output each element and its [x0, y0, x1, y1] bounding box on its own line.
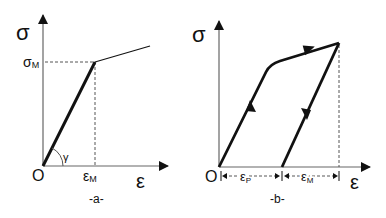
x-axis-label: ε [136, 170, 145, 192]
eps-m-label: εM [83, 168, 97, 184]
eps-m-label: εM [301, 169, 314, 185]
caption-b: -b- [270, 192, 285, 206]
panel-a: σ σM O εM ε γ -a- [16, 15, 168, 206]
unloading-path [282, 43, 339, 167]
angle-label: γ [63, 151, 69, 163]
origin-label: O [32, 167, 44, 184]
angle-arc [52, 148, 63, 166]
caption-a: -a- [89, 192, 104, 206]
x-axis-label: ε [350, 171, 359, 193]
plastic-line [95, 46, 150, 62]
stress-strain-diagrams: σ σM O εM ε γ -a- σ O εP εM ε [0, 0, 386, 218]
down-arrow-icon [301, 108, 311, 120]
y-axis-label: σ [192, 22, 206, 47]
origin-label: O [205, 168, 217, 185]
y-axis-label: σ [16, 20, 30, 45]
loading-path [219, 43, 339, 167]
sigma-m-label: σM [23, 54, 39, 70]
eps-p-label: εP [240, 169, 251, 185]
panel-b: σ O εP εM ε -b- [192, 21, 370, 206]
elastic-line [43, 62, 95, 166]
